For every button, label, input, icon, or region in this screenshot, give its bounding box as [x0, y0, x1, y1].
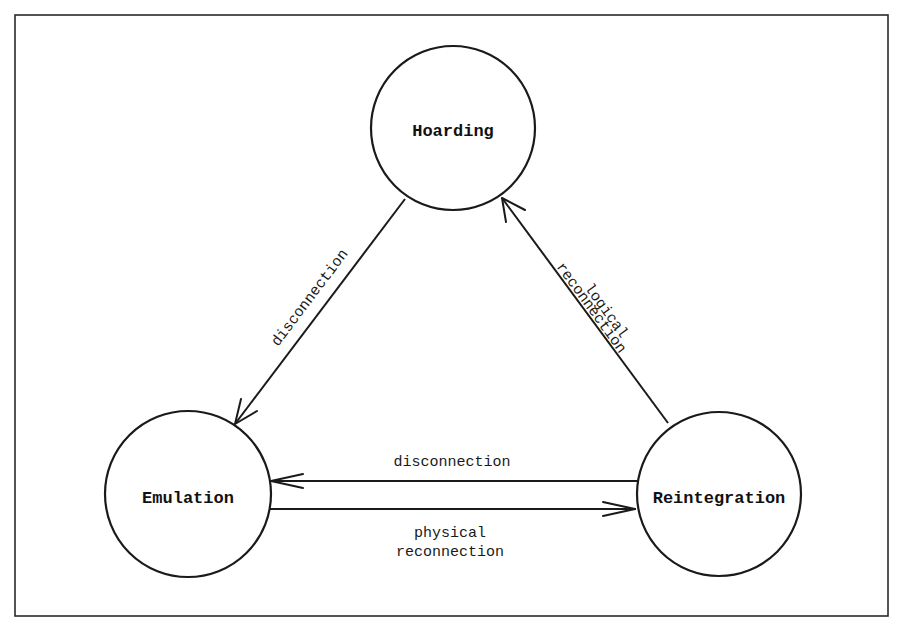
state-hoarding: Hoarding [371, 46, 535, 210]
edge-label-reconnection-diagonal: reconnection [552, 260, 629, 357]
state-label-reintegration: Reintegration [653, 489, 786, 508]
state-emulation: Emulation [105, 411, 271, 577]
edge-line [235, 199, 405, 424]
transition-reintegration-to-emulation: disconnection [270, 454, 638, 488]
transition-reintegration-to-hoarding: logical reconnection [502, 198, 668, 423]
state-reintegration: Reintegration [637, 412, 801, 576]
edge-label-disconnection-horizontal: disconnection [393, 454, 510, 471]
transition-emulation-to-reintegration: physical reconnection [270, 502, 636, 561]
state-diagram: disconnection logical reconnection disco… [0, 0, 903, 626]
edge-label-disconnection-diagonal: disconnection [268, 246, 352, 350]
transition-hoarding-to-emulation: disconnection [235, 199, 405, 424]
edge-label-reconnection-horizontal: reconnection [396, 544, 504, 561]
edge-label-physical: physical [414, 525, 486, 542]
state-label-emulation: Emulation [142, 489, 234, 508]
state-label-hoarding: Hoarding [412, 122, 494, 141]
